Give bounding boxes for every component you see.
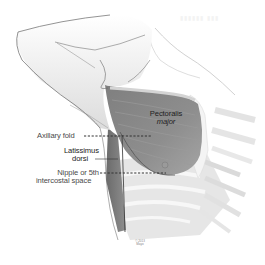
label-pectoralis-major: Pectoralis major xyxy=(143,110,189,126)
watermark: ▮▮▮▮▮▮ ▮▮▮ xyxy=(180,14,219,21)
label-latissimus-line2: dorsi xyxy=(64,155,96,163)
label-axillary-fold: Axillary fold xyxy=(37,132,75,140)
label-nipple-intercostal: Nipple or 5th intercostal space xyxy=(37,169,99,185)
label-nipple-line2: intercostal space xyxy=(36,177,99,185)
credit-line2: Mayo xyxy=(133,243,147,246)
image-credit: © 2013 Mayo xyxy=(133,240,147,246)
label-pectoralis-line2: major xyxy=(143,118,189,126)
anatomy-illustration: ▮▮▮▮▮▮ ▮▮▮ Pectoralis major Axillary fol… xyxy=(0,0,265,265)
label-latissimus-dorsi: Latissimus dorsi xyxy=(64,147,96,163)
